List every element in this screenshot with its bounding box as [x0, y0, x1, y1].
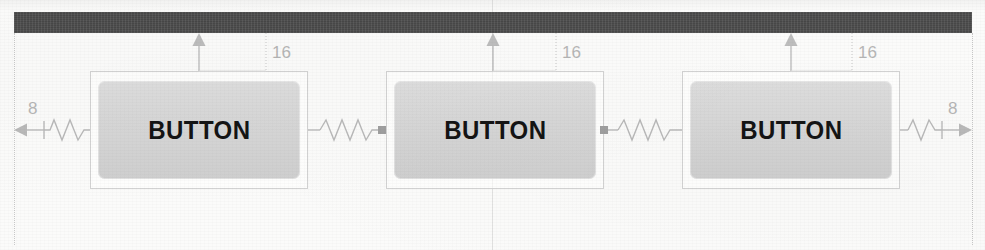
button-2[interactable]: BUTTON	[394, 81, 596, 179]
parent-container-bar	[14, 12, 972, 33]
button-2-label: BUTTON	[444, 118, 546, 143]
scanned-figure-canvas: BUTTON BUTTON BUTTON	[0, 0, 985, 250]
dimension-label-top-margin-3: 16	[858, 44, 877, 61]
button-1[interactable]: BUTTON	[98, 81, 300, 179]
top-margin-arrow-1	[193, 33, 267, 71]
dimension-label-top-margin-2: 16	[562, 44, 581, 61]
spring-connector-right-edge	[900, 120, 972, 140]
top-margin-arrow-2	[487, 33, 557, 71]
spring-connector-button1-button2	[308, 120, 386, 140]
button-1-label: BUTTON	[148, 118, 250, 143]
spring-connector-left-edge	[14, 120, 90, 140]
spring-connector-button2-button3	[600, 120, 682, 140]
top-margin-arrow-3	[785, 33, 853, 71]
dimension-label-top-margin-1: 16	[272, 44, 291, 61]
guide-line-right	[972, 33, 973, 245]
button-3-label: BUTTON	[740, 118, 842, 143]
dimension-label-left-margin: 8	[28, 100, 37, 117]
button-3[interactable]: BUTTON	[690, 81, 892, 179]
guide-line-left	[14, 33, 15, 245]
dimension-label-right-margin: 8	[948, 100, 957, 117]
